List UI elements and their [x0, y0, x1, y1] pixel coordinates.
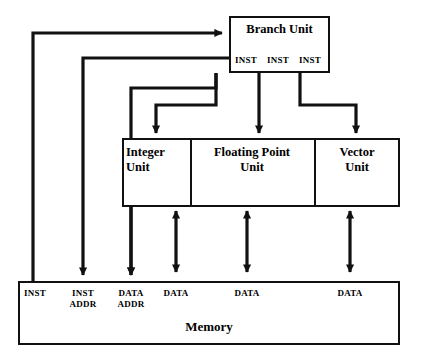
branch-unit-title: Branch Unit	[229, 22, 330, 37]
wire-branch-to-integer-unit	[156, 73, 216, 133]
diagram-canvas: Branch Unit INST INST INST Integer Unit …	[0, 0, 423, 362]
branch-unit-port-0: INST	[231, 55, 261, 66]
branch-unit-port-2: INST	[295, 55, 325, 66]
memory-port-data-1: DATA	[230, 288, 264, 299]
vector-unit-title: Vector Unit	[316, 145, 398, 175]
memory-port-inst-addr: INST ADDR	[66, 288, 100, 310]
memory-port-data-0: DATA	[159, 288, 193, 299]
floating-point-unit-title: Floating Point Unit	[192, 145, 312, 175]
memory-title: Memory	[18, 319, 400, 334]
memory-port-data-addr: DATA ADDR	[114, 288, 148, 310]
memory-port-inst: INST	[18, 288, 52, 299]
memory-port-data-2: DATA	[333, 288, 367, 299]
integer-unit-title: Integer Unit	[126, 145, 188, 175]
branch-unit-port-1: INST	[263, 55, 293, 66]
wire-branch-to-vector-unit	[300, 73, 356, 133]
